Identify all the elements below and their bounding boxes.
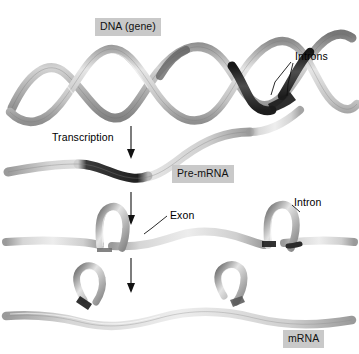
dna-helix-group <box>10 34 357 122</box>
label-intron: Intron <box>294 196 321 209</box>
label-transcription: Transcription <box>52 131 114 144</box>
label-pre-mrna: Pre-mRNA <box>172 165 234 183</box>
pre-mrna-strand-group <box>8 110 300 178</box>
mature-mrna-strand <box>6 312 352 326</box>
label-dna-gene: DNA (gene) <box>95 18 161 36</box>
label-mrna: mRNA <box>283 330 324 348</box>
exon-leader-line <box>144 216 167 234</box>
excised-intron-left <box>76 266 103 310</box>
label-introns: Introns <box>295 50 328 63</box>
splicing-arrow-2-shape <box>127 258 135 293</box>
label-exon: Exon <box>170 209 194 222</box>
transcription-arrow-shape <box>127 126 135 159</box>
excised-intron-right <box>218 265 245 307</box>
rna-splicing-figure: DNA (gene) Introns Transcription Pre-mRN… <box>0 0 359 354</box>
